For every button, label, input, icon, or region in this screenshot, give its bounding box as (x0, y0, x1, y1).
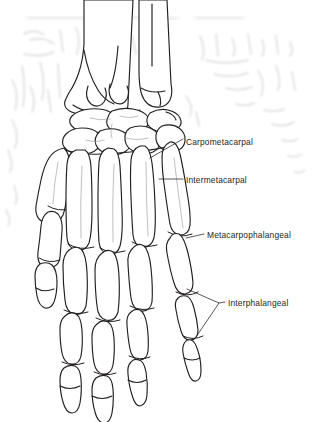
label-intermetacarpal: Intermetacarpal (186, 176, 247, 184)
middle-proximal-phalanx (95, 250, 119, 320)
label-carpometacarpal: Carpometacarpal (186, 138, 253, 146)
middle-metacarpal (98, 148, 122, 254)
ulna-bone (139, 0, 172, 107)
hand-skeleton-figure (0, 0, 321, 422)
middle-middle-phalanx (92, 321, 114, 374)
ring-proximal-phalanx (128, 244, 152, 311)
thumb-distal-phalanx (35, 263, 57, 308)
index-middle-phalanx (60, 313, 82, 364)
label-interphalangeal: Interphalangeal (228, 299, 288, 307)
ring-metacarpal (131, 146, 156, 247)
label-metacarpophalangeal: Metacarpophalangeal (207, 231, 291, 239)
index-metacarpal (66, 150, 92, 250)
index-proximal-phalanx (63, 247, 87, 314)
